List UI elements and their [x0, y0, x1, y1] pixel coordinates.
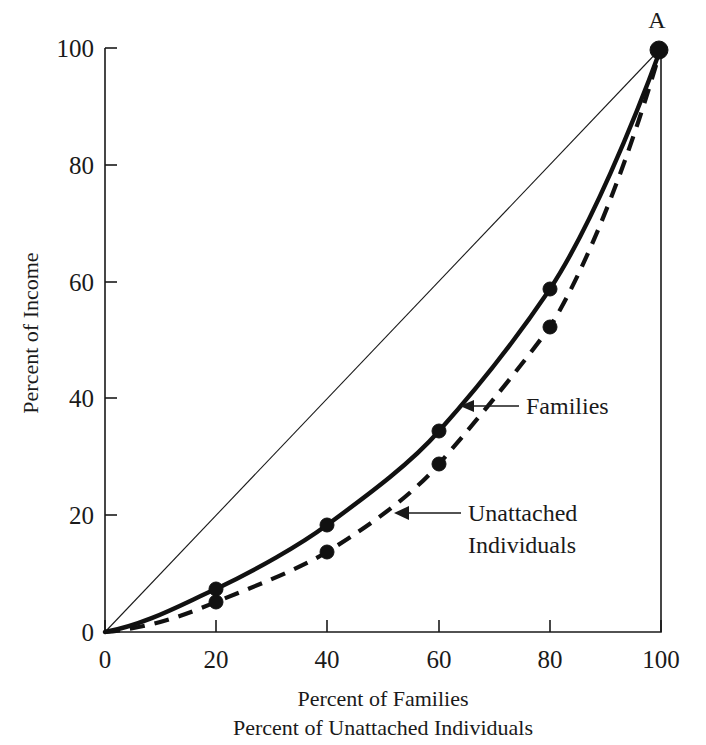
- annotation-label-unattached-line1: Unattached: [468, 500, 577, 526]
- x-axis-ticks: [105, 620, 661, 632]
- x-tick-label-20: 20: [204, 646, 229, 673]
- y-tick-label-40: 40: [69, 385, 94, 412]
- x-tick-label-60: 60: [427, 646, 452, 673]
- marker-families-60: [432, 424, 446, 438]
- x-axis-title-line2: Percent of Unattached Individuals: [233, 715, 533, 740]
- x-tick-label-40: 40: [315, 646, 340, 673]
- y-tick-labels: 0 20 40 60 80 100: [57, 35, 95, 646]
- lorenz-curve-figure: 0 20 40 60 80 100 0 20 40 60 80 100: [0, 0, 706, 745]
- y-axis-ticks: [105, 48, 117, 632]
- marker-unattached-40: [320, 545, 334, 559]
- marker-unattached-20: [209, 595, 223, 609]
- x-tick-labels: 0 20 40 60 80 100: [99, 646, 680, 673]
- annotation-families: Families: [460, 393, 609, 419]
- marker-unattached-80: [543, 320, 557, 334]
- line-of-equality: [105, 48, 661, 632]
- annotation-label-unattached-line2: Individuals: [468, 532, 576, 558]
- annotation-unattached-individuals: Unattached Individuals: [394, 500, 577, 558]
- x-axis-title-line1: Percent of Families: [297, 686, 468, 711]
- annotation-label-families: Families: [526, 393, 609, 419]
- y-tick-label-60: 60: [69, 269, 94, 296]
- label-point-a: A: [648, 7, 666, 33]
- chart-canvas: 0 20 40 60 80 100 0 20 40 60 80 100: [0, 0, 706, 745]
- unattached-arrowhead-icon: [394, 506, 409, 520]
- y-axis-title: Percent of Income: [18, 252, 43, 413]
- y-tick-label-100: 100: [57, 35, 95, 62]
- marker-families-40: [320, 518, 334, 532]
- x-tick-label-80: 80: [538, 646, 563, 673]
- marker-families-80: [543, 282, 557, 296]
- x-tick-label-100: 100: [642, 646, 680, 673]
- marker-unattached-60: [432, 457, 446, 471]
- y-tick-label-0: 0: [82, 619, 95, 646]
- x-tick-label-0: 0: [99, 646, 112, 673]
- marker-point-a: [650, 41, 668, 59]
- y-tick-label-20: 20: [69, 502, 94, 529]
- y-tick-label-80: 80: [69, 152, 94, 179]
- marker-families-20: [209, 582, 223, 596]
